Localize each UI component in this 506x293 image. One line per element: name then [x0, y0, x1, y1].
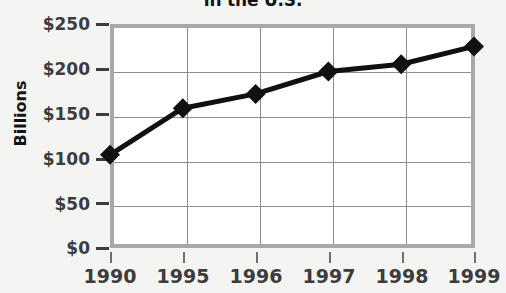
x-tick-mark-1999	[474, 252, 476, 263]
y-tick-label-0: $0	[4, 238, 90, 258]
y-tick-mark-100	[96, 158, 109, 161]
y-tick-mark-0	[96, 247, 109, 250]
y-tick-label-50: $50	[4, 194, 90, 214]
y-tick-label-100: $100	[4, 149, 90, 169]
x-tick-label-1999: 1999	[438, 265, 506, 287]
y-tick-label-250: $250	[4, 14, 90, 34]
plot-area	[110, 24, 475, 248]
x-tick-label-1996: 1996	[220, 265, 292, 287]
y-tick-label-150: $150	[4, 104, 90, 124]
y-axis-tick-labels: $250 $200 $150 $100 $50 $0	[4, 0, 90, 293]
x-tick-label-1997: 1997	[293, 265, 365, 287]
gridline-1997	[333, 28, 334, 244]
x-tick-mark-1997	[329, 252, 331, 263]
y-tick-mark-50	[96, 202, 109, 205]
gridline-50	[114, 206, 471, 207]
x-tick-mark-1995	[183, 252, 185, 263]
y-tick-mark-150	[96, 113, 109, 116]
gridline-1998	[406, 28, 407, 244]
gridline-1995	[187, 28, 188, 244]
y-tick-mark-200	[96, 68, 109, 71]
gridline-1996	[260, 28, 261, 244]
x-tick-label-1990: 1990	[74, 265, 146, 287]
x-tick-mark-1990	[110, 252, 112, 263]
x-tick-label-1995: 1995	[147, 265, 219, 287]
gridline-150	[114, 117, 471, 118]
gridline-200	[114, 72, 471, 73]
x-tick-label-1998: 1998	[366, 265, 438, 287]
y-tick-label-200: $200	[4, 59, 90, 79]
x-tick-mark-1998	[402, 252, 404, 263]
y-tick-mark-250	[96, 23, 109, 26]
line-chart: in the U.S. Billions $250 $200 $150 $100…	[0, 0, 506, 293]
x-tick-mark-1996	[256, 252, 258, 263]
gridline-100	[114, 162, 471, 163]
